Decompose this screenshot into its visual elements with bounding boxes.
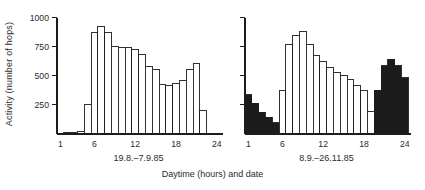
bar-hour-21: [193, 64, 200, 134]
x-tick-label-18: 18: [359, 139, 369, 149]
right-panel-date-label: 8.9.–26.11.85: [245, 153, 408, 163]
bar-hour-15: [152, 69, 159, 134]
x-tick-label-12: 12: [318, 139, 328, 149]
x-tick-label-18: 18: [171, 139, 181, 149]
bar-hour-13: [139, 54, 146, 134]
bar-hour-20: [374, 90, 381, 134]
bar-hour-6: [91, 32, 98, 134]
bar-hour-18: [173, 83, 180, 134]
bar-hour-10: [118, 47, 125, 134]
x-axis-label: Daytime (hours) and date: [0, 169, 425, 179]
bar-hour-17: [354, 85, 361, 134]
x-tick-label-1: 1: [58, 139, 63, 149]
bar-hour-21: [381, 66, 388, 134]
bar-hour-22: [388, 59, 395, 134]
bar-hour-14: [333, 72, 340, 134]
bar-hour-7: [286, 44, 293, 134]
bar-hour-18: [361, 91, 368, 134]
x-tick-label-6: 6: [92, 139, 97, 149]
bar-hour-15: [340, 76, 347, 134]
bar-hour-5: [84, 105, 91, 134]
bar-hour-9: [111, 47, 118, 134]
x-tick-label-12: 12: [130, 139, 140, 149]
x-tick-label-6: 6: [280, 139, 285, 149]
bar-hour-13: [327, 68, 334, 134]
bar-hour-11: [313, 55, 320, 134]
y-tick-label-1000: 1000: [30, 13, 49, 23]
y-tick-label-250: 250: [35, 100, 50, 110]
bar-hour-16: [347, 80, 354, 134]
bar-hour-6: [279, 91, 286, 134]
right-panel-chart: 16121824: [215, 8, 415, 158]
bar-hour-8: [293, 36, 300, 134]
bar-hour-14: [145, 66, 152, 134]
bar-hour-12: [132, 50, 139, 134]
bar-hour-10: [306, 44, 313, 134]
bar-hour-9: [299, 31, 306, 134]
bar-hour-19: [367, 112, 374, 134]
bar-hour-20: [186, 69, 193, 134]
left-panel-chart: 250500750100016121824: [27, 8, 227, 158]
x-tick-label-24: 24: [400, 139, 410, 149]
bar-hour-16: [159, 84, 166, 134]
x-tick-label-1: 1: [246, 139, 251, 149]
bar-hour-12: [320, 61, 327, 134]
bar-hour-24: [401, 78, 408, 135]
bar-hour-3: [259, 112, 266, 134]
bar-hour-22: [200, 110, 207, 134]
bar-hour-7: [98, 26, 105, 134]
y-tick-label-500: 500: [35, 71, 50, 81]
bar-hour-4: [265, 117, 272, 134]
y-tick-label-750: 750: [35, 42, 50, 52]
bar-hour-19: [179, 80, 186, 134]
y-axis-label: Activity (number of hops): [4, 22, 14, 127]
activity-histogram-figure: Activity (number of hops) 25050075010001…: [0, 0, 425, 190]
left-panel-date-label: 19.8.–7.9.85: [57, 153, 220, 163]
bar-hour-8: [105, 33, 112, 134]
bar-hour-5: [272, 123, 279, 134]
bar-hour-23: [395, 66, 402, 134]
bar-hour-17: [166, 85, 173, 134]
bar-hour-1: [245, 95, 252, 134]
bar-hour-2: [252, 103, 259, 134]
bar-hour-11: [125, 48, 132, 134]
